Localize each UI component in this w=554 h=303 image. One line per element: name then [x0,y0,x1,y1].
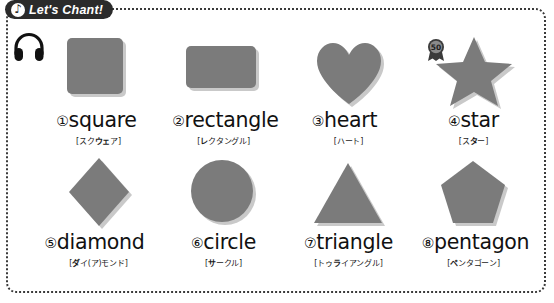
shape-card-circle[interactable]: ⑥circle [サークル] [161,154,286,272]
item-word: circle [203,232,256,253]
shape-card-rectangle[interactable]: ②rectangle [レクタングル] [161,32,286,150]
music-note-icon: ♪ [11,3,25,17]
title-badge: ♪ Let's Chant! [5,0,113,19]
item-number: ② [172,114,184,128]
item-word: diamond [57,232,145,253]
shape-katakana-star: [スター] [459,135,488,146]
item-number: ⑦ [304,236,316,250]
diamond-shape [36,154,161,232]
title-badge-label: Let's Chant! [29,2,103,16]
shape-card-heart[interactable]: ③heart [ハート] [286,32,411,150]
circle-shape [161,154,286,232]
shape-label-circle: ⑥circle [191,232,256,253]
shape-label-diamond: ⑤diamond [45,232,145,253]
item-number: ③ [312,114,324,128]
shape-label-heart: ③heart [312,110,377,131]
shape-label-star: ④star [448,110,499,131]
square-shape [36,32,161,110]
shape-label-pentagon: ⑧pentagon [422,232,530,253]
shape-card-square[interactable]: ①square [スクウェア] [36,32,161,150]
rectangle-shape [161,32,286,110]
shape-katakana-diamond: [ダイ(ア)モンド] [69,257,128,268]
shape-label-square: ①square [56,110,136,131]
item-number: ⑧ [422,236,434,250]
pentagon-shape [411,154,536,232]
shape-label-triangle: ⑦triangle [304,232,393,253]
item-number: ④ [448,114,460,128]
item-number: ⑤ [45,236,57,250]
item-word: heart [324,110,377,131]
shape-row-1: ①square [スクウェア] ②rectangle [レクタングル] [36,32,536,150]
heart-shape [286,32,411,110]
shape-katakana-square: [スクウェア] [76,135,121,146]
item-word: square [69,110,137,131]
triangle-shape [286,154,411,232]
shape-card-diamond[interactable]: ⑤diamond [ダイ(ア)モンド] [36,154,161,272]
shape-card-pentagon[interactable]: ⑧pentagon [ペンタゴーン] [411,154,536,272]
worksheet-panel: ♪ Let's Chant! 50 ①squa [6,8,546,293]
shape-katakana-rectangle: [レクタングル] [197,135,250,146]
star-shape [411,32,536,110]
shape-katakana-triangle: [トゥライアングル] [314,257,382,268]
shape-katakana-circle: [サークル] [205,257,242,268]
item-number: ① [56,114,68,128]
shape-katakana-pentagon: [ペンタゴーン] [447,257,500,268]
item-word: triangle [316,232,393,253]
shape-row-2: ⑤diamond [ダイ(ア)モンド] ⑥circle [サークル] [36,154,536,272]
item-word: rectangle [185,110,279,131]
item-word: pentagon [434,232,529,253]
item-number: ⑥ [191,236,203,250]
shape-label-rectangle: ②rectangle [172,110,278,131]
item-word: star [460,110,499,131]
shape-card-star[interactable]: ④star [スター] [411,32,536,150]
shape-katakana-heart: [ハート] [334,135,363,146]
shape-card-triangle[interactable]: ⑦triangle [トゥライアングル] [286,154,411,272]
